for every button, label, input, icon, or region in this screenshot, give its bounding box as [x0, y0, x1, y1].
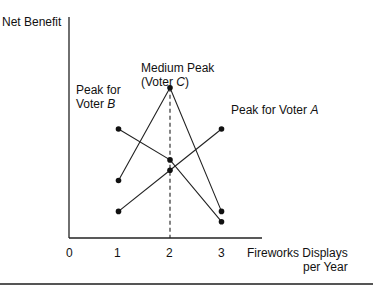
voter-c-point [116, 178, 122, 184]
voter-b-point [219, 219, 225, 225]
annotation-voter-b-line2: Voter B [76, 97, 121, 111]
chart-canvas [0, 0, 373, 288]
x-axis-label-line2: per Year [247, 260, 348, 274]
voter-a-point [167, 167, 173, 173]
voter-c-point [219, 209, 225, 215]
x-axis-label-line1: Fireworks Displays [247, 246, 348, 260]
x-tick-1: 1 [114, 246, 121, 260]
x-tick-3: 3 [218, 246, 225, 260]
annotation-voter-b-line1: Peak for [76, 83, 121, 97]
voter-a-point [116, 209, 122, 215]
annotation-voter-c: Medium Peak (Voter C) [141, 61, 214, 89]
voter-b-point [116, 126, 122, 132]
bottom-rule [0, 283, 373, 285]
annotation-voter-a: Peak for Voter A [231, 103, 318, 117]
voter-a-point [219, 126, 225, 132]
voter-b-point [167, 157, 173, 163]
x-axis-label: Fireworks Displays per Year [247, 246, 348, 274]
y-axis-label: Net Benefit [2, 15, 61, 29]
x-tick-0: 0 [66, 246, 73, 260]
annotation-voter-c-line1: Medium Peak [141, 61, 214, 75]
annotation-voter-b: Peak for Voter B [76, 83, 121, 111]
annotation-voter-c-line2: (Voter C) [141, 75, 214, 89]
x-tick-2: 2 [166, 246, 173, 260]
plot-area [116, 85, 225, 238]
